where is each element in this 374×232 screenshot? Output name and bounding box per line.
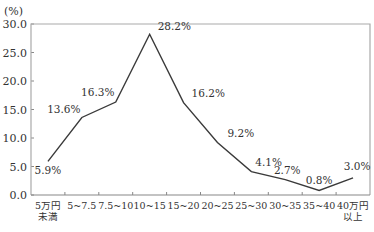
x-tick-label: 7.5~10: [98, 200, 133, 211]
x-tick-label: 15~20: [167, 200, 199, 211]
x-tick-label: 40万円以上: [337, 200, 369, 222]
y-tick-label: 0.0: [10, 189, 28, 202]
data-label: 28.2%: [158, 20, 191, 32]
data-label: 16.2%: [192, 87, 225, 99]
data-label: 16.3%: [81, 86, 114, 98]
y-tick-label: 20.0: [3, 75, 28, 88]
data-label: 0.8%: [306, 174, 333, 186]
y-tick-label: 15.0: [3, 104, 28, 117]
x-tick-label: 35~40: [303, 200, 335, 211]
data-label: 3.0%: [344, 160, 371, 172]
y-axis: 0.05.010.015.020.025.030.0: [3, 18, 35, 202]
series-line: [48, 34, 353, 190]
data-label: 5.9%: [35, 164, 62, 176]
data-labels: 5.9%13.6%16.3%28.2%16.2%9.2%4.1%2.7%0.8%…: [35, 20, 371, 186]
data-label: 2.7%: [274, 164, 301, 176]
x-tick-label: 5万円未満: [35, 200, 61, 222]
y-tick-label: 5.0: [10, 161, 28, 174]
y-tick-label: 10.0: [3, 132, 28, 145]
y-tick-label: 30.0: [3, 18, 28, 31]
line-chart: (%) 0.05.010.015.020.025.030.0 5万円未満5~7.…: [0, 0, 374, 232]
x-tick-label: 25~30: [235, 200, 267, 211]
data-label: 13.6%: [47, 103, 80, 115]
y-axis-unit-label: (%): [4, 5, 23, 18]
data-label: 9.2%: [227, 127, 254, 139]
x-axis: 5万円未満5~7.57.5~1010~1515~2020~2525~3030~3…: [31, 192, 370, 222]
x-tick-label: 20~25: [201, 200, 233, 211]
x-tick-label: 10~15: [134, 200, 166, 211]
x-tick-label: 5~7.5: [67, 200, 96, 211]
plot-frame: [31, 24, 370, 195]
y-tick-label: 25.0: [3, 47, 28, 60]
x-tick-label: 30~35: [269, 200, 301, 211]
